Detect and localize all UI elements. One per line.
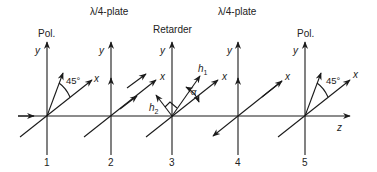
neg-x-axis-4 — [213, 116, 238, 136]
x-label-4: x — [284, 71, 291, 82]
x-axis-1 — [20, 80, 92, 137]
angle-label-5: 45° — [326, 75, 341, 86]
x-label-1: x — [93, 73, 100, 84]
x-axis-arrow-4 — [262, 81, 282, 97]
component-label-1: Pol. — [38, 28, 55, 39]
station-2 — [84, 42, 156, 155]
station-5 — [278, 42, 350, 155]
station-4 — [213, 42, 282, 155]
right-angle-mark — [165, 102, 177, 108]
component-label-2: λ/4-plate — [90, 6, 129, 17]
slow-axis-arrow-2 — [120, 96, 137, 109]
h2-label: h2 — [149, 102, 159, 115]
station-number-2: 2 — [108, 157, 114, 168]
component-label-3: Retarder — [153, 24, 193, 35]
y-label-1: y — [34, 45, 41, 56]
station-number-4: 4 — [235, 157, 241, 168]
angle-label-1: 45° — [66, 75, 81, 86]
h1-label: h1 — [198, 63, 208, 76]
station-number-1: 1 — [44, 157, 50, 168]
station-1 — [20, 42, 92, 155]
x-axis-arrow-3 — [127, 74, 146, 88]
z-axis-label: z — [336, 122, 342, 133]
y-label-4: y — [226, 45, 233, 56]
x-label-3: x — [221, 71, 228, 82]
component-label-5: Pol. — [297, 28, 314, 39]
y-label-2: y — [98, 45, 105, 56]
y-label-5: y — [292, 45, 299, 56]
station-number-5: 5 — [302, 157, 308, 168]
x-label-3-left: x — [159, 71, 166, 82]
x-label-5: x — [352, 69, 359, 80]
polarization-optics-diagram: Pol. λ/4-plate Retarder λ/4-plate Pol. y… — [0, 0, 377, 172]
alpha-label: α — [191, 86, 197, 97]
h1-subscript: 1 — [204, 69, 208, 76]
h2-subscript: 2 — [155, 108, 159, 115]
component-label-4: λ/4-plate — [218, 6, 257, 17]
station-number-3: 3 — [169, 157, 175, 168]
station-3 — [127, 42, 218, 155]
y-label-3: y — [159, 45, 166, 56]
